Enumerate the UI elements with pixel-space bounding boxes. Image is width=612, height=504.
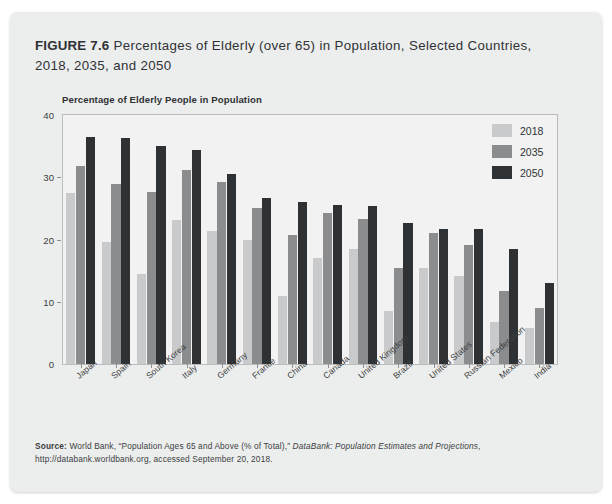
source-line1b: , xyxy=(478,441,480,451)
bar-group xyxy=(66,115,95,364)
bar-group xyxy=(207,115,236,364)
bar-germany-2050 xyxy=(227,174,236,364)
bar-south-korea-2035 xyxy=(147,192,156,364)
bar-japan-2035 xyxy=(76,166,85,364)
bar-spain-2018 xyxy=(102,242,111,364)
source-note: Source: World Bank, “Population Ages 65 … xyxy=(35,440,580,465)
legend-item-2018[interactable]: 2018 xyxy=(492,122,566,139)
y-axis-tick-label: 0 xyxy=(32,359,54,370)
bar-united-kingdom-2050 xyxy=(368,206,377,364)
plot-area xyxy=(63,115,557,364)
legend-label-2035: 2035 xyxy=(520,146,543,158)
bar-japan-2018 xyxy=(66,193,75,364)
bar-united-kingdom-2035 xyxy=(358,219,367,364)
chart-legend: 201820352050 xyxy=(492,122,566,185)
y-axis-tick-label: 40 xyxy=(32,110,54,121)
y-axis-tick-label: 20 xyxy=(32,234,54,245)
figure-title: FIGURE 7.6 Percentages of Elderly (over … xyxy=(35,36,555,76)
bar-japan-2050 xyxy=(86,137,95,364)
bar-group xyxy=(384,115,413,364)
bar-group xyxy=(454,115,483,364)
bar-group xyxy=(243,115,272,364)
bar-italy-2035 xyxy=(182,170,191,364)
y-axis-tick-mark xyxy=(57,177,61,178)
legend-label-2050: 2050 xyxy=(520,167,543,179)
bar-group xyxy=(349,115,378,364)
bar-united-states-2050 xyxy=(439,229,448,364)
bar-germany-2035 xyxy=(217,182,226,364)
chart-axis-title: Percentage of Elderly People in Populati… xyxy=(62,94,262,105)
y-axis-tick-label: 30 xyxy=(32,172,54,183)
bar-russian-federation-2050 xyxy=(474,229,483,364)
bar-spain-2035 xyxy=(111,184,120,364)
figure-card: FIGURE 7.6 Percentages of Elderly (over … xyxy=(10,12,602,492)
bar-group xyxy=(419,115,448,364)
bar-mexico-2050 xyxy=(509,249,518,364)
source-publication: DataBank: Population Estimates and Proje… xyxy=(293,441,478,451)
legend-item-2050[interactable]: 2050 xyxy=(492,164,566,181)
source-prefix: Source: xyxy=(35,441,67,451)
y-axis-tick-label: 10 xyxy=(32,296,54,307)
bar-united-kingdom-2018 xyxy=(349,249,358,364)
x-axis-labels: JapanSpainSouth KoreaItalyGermanyFranceC… xyxy=(63,367,557,439)
bar-france-2018 xyxy=(243,240,252,365)
bar-canada-2050 xyxy=(333,205,342,364)
bar-china-2050 xyxy=(298,202,307,364)
bar-group xyxy=(137,115,166,364)
chart-container: Percentage of Elderly People in Populati… xyxy=(35,94,580,394)
figure-number: FIGURE 7.6 xyxy=(35,38,109,53)
bar-india-2050 xyxy=(545,283,554,364)
bar-india-2035 xyxy=(535,308,544,364)
source-line1a: World Bank, “Population Ages 65 and Abov… xyxy=(67,441,293,451)
y-axis-tick-mark xyxy=(57,302,61,303)
bar-france-2035 xyxy=(252,208,261,364)
bar-canada-2018 xyxy=(313,258,322,364)
bar-france-2050 xyxy=(262,198,271,364)
figure-title-text: Percentages of Elderly (over 65) in Popu… xyxy=(35,38,532,73)
legend-swatch-2035 xyxy=(492,145,512,158)
bar-china-2035 xyxy=(288,235,297,364)
bar-group xyxy=(172,115,201,364)
bar-canada-2035 xyxy=(323,213,332,364)
legend-label-2018: 2018 xyxy=(520,125,543,137)
bar-south-korea-2018 xyxy=(137,274,146,364)
bar-italy-2050 xyxy=(192,150,201,364)
bar-spain-2050 xyxy=(121,138,130,364)
legend-swatch-2050 xyxy=(492,166,512,179)
x-axis-label-italy: Italy xyxy=(180,363,199,381)
y-axis-tick-mark xyxy=(57,240,61,241)
bar-germany-2018 xyxy=(207,231,216,364)
bar-group xyxy=(313,115,342,364)
bar-united-states-2018 xyxy=(419,268,428,364)
bar-group xyxy=(102,115,131,364)
source-url-line: http://databank.worldbank.org, accessed … xyxy=(35,454,273,464)
y-axis: 010203040 xyxy=(35,114,62,365)
legend-swatch-2018 xyxy=(492,124,512,137)
bar-united-states-2035 xyxy=(429,233,438,364)
bar-group xyxy=(278,115,307,364)
bar-south-korea-2050 xyxy=(156,146,165,364)
legend-item-2035[interactable]: 2035 xyxy=(492,143,566,160)
bar-china-2018 xyxy=(278,296,287,364)
bar-india-2018 xyxy=(525,328,534,364)
